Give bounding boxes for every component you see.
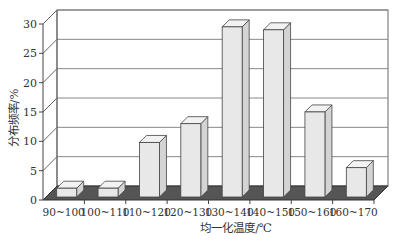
side-wall-line <box>43 69 57 83</box>
y-axis-ticks: 051015202530 <box>23 18 43 207</box>
x-tick-label: 90~100 <box>43 206 85 218</box>
y-tick-label: 5 <box>30 165 37 178</box>
y-tick-label: 10 <box>23 135 37 148</box>
x-axis-title: 均一化温度/℃ <box>200 221 272 235</box>
floor-plane <box>43 186 388 200</box>
side-wall-line <box>43 98 57 112</box>
bar <box>181 117 208 197</box>
side-wall-line <box>43 157 57 171</box>
bar <box>139 135 166 197</box>
x-tick-label: 160~170 <box>329 206 378 218</box>
bar <box>346 161 373 197</box>
bar <box>264 23 291 197</box>
y-axis-title: 分布频率/% <box>7 89 21 148</box>
bar-chart: 051015202530 90~100100~110110~120120~130… <box>0 0 416 241</box>
y-tick-label: 20 <box>23 77 37 90</box>
bar <box>222 20 249 197</box>
side-wall-line <box>43 39 57 53</box>
side-wall-line <box>43 10 57 24</box>
chart-floor <box>43 186 388 200</box>
y-tick-label: 30 <box>23 18 37 31</box>
y-tick-label: 0 <box>30 194 37 207</box>
x-axis-labels: 90~100100~110110~120120~130130~140140~15… <box>43 200 378 218</box>
chart-walls <box>43 10 388 200</box>
y-tick-label: 15 <box>23 106 37 119</box>
side-wall-line <box>43 127 57 141</box>
y-tick-label: 25 <box>23 47 37 60</box>
bar <box>305 105 332 197</box>
